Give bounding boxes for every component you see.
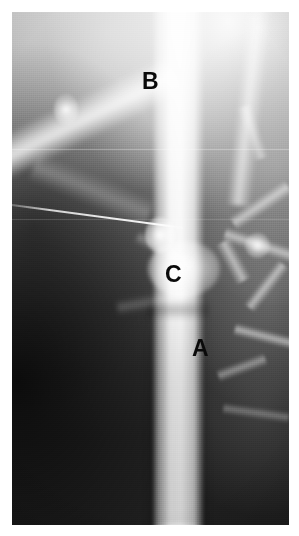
annotation-label-c: C	[165, 263, 182, 286]
annotation-label-a: A	[192, 337, 209, 360]
annotation-label-b: B	[142, 70, 159, 93]
radiograph-page: B C A	[0, 0, 299, 536]
